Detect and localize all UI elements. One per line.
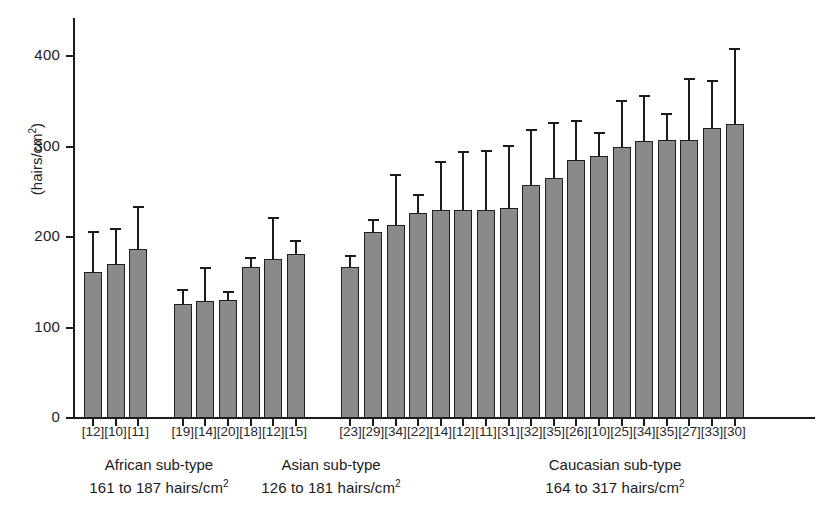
y-axis-tick [66, 236, 74, 238]
bar [174, 304, 192, 418]
group-caption-asian-line2: 126 to 181 hairs/cm2 [216, 474, 446, 497]
error-bar [666, 113, 668, 140]
error-bar-cap [200, 267, 211, 269]
bar [500, 208, 518, 418]
error-bar [182, 289, 184, 304]
error-bar-cap [661, 113, 672, 115]
group-caption-asian: Asian sub-type 126 to 181 hairs/cm2 [216, 455, 446, 497]
error-bar [440, 161, 442, 210]
bar [196, 301, 214, 418]
error-bar [204, 267, 206, 301]
y-axis-title-tail: ) [28, 123, 45, 128]
error-bar [598, 132, 600, 156]
bar [635, 141, 653, 418]
y-axis-tick-label: 300 [8, 137, 60, 154]
error-bar-cap [616, 100, 627, 102]
y-axis-title: (hairs/cm2) [27, 79, 45, 239]
bar [658, 140, 676, 418]
error-bar-cap [345, 255, 356, 257]
bar [264, 259, 282, 418]
group-caption-asian-range: 126 to 181 hairs/cm [261, 479, 395, 496]
error-bar [92, 231, 94, 273]
bar [107, 264, 125, 418]
bar [432, 210, 450, 418]
y-axis-tick [66, 417, 74, 419]
group-caption-caucasian-range: 164 to 317 hairs/cm [545, 479, 679, 496]
error-bar [272, 217, 274, 259]
error-bar-cap [110, 228, 121, 230]
error-bar-cap [435, 161, 446, 163]
group-caption-caucasian-line2: 164 to 317 hairs/cm2 [485, 474, 745, 497]
x-axis-label: [30] [719, 424, 751, 439]
error-bar-cap [368, 219, 379, 221]
error-bar-cap [177, 289, 188, 291]
bar [545, 178, 563, 418]
error-bar-cap [571, 120, 582, 122]
error-bar [137, 206, 139, 249]
bar [364, 232, 382, 418]
error-bar-cap [245, 257, 256, 259]
bar [522, 185, 540, 418]
error-bar-cap [594, 132, 605, 134]
bar [219, 300, 237, 418]
error-bar-cap [290, 240, 301, 242]
error-bar [485, 150, 487, 210]
bar [726, 124, 744, 418]
error-bar-cap [88, 231, 99, 233]
error-bar [530, 129, 532, 185]
bar [703, 128, 721, 418]
bar [477, 210, 495, 418]
error-bar-cap [639, 95, 650, 97]
group-caption-asian-sup: 2 [395, 478, 401, 489]
y-axis-tick [66, 146, 74, 148]
bar [454, 210, 472, 418]
y-axis-tick-label: 0 [8, 408, 60, 425]
group-caption-asian-line1: Asian sub-type [216, 455, 446, 474]
error-bar-cap [481, 150, 492, 152]
y-axis-tick [66, 55, 74, 57]
error-bar [295, 240, 297, 254]
bar [409, 213, 427, 418]
error-bar-cap [707, 80, 718, 82]
error-bar-cap [413, 194, 424, 196]
error-bar [688, 78, 690, 140]
y-axis-title-superscript: 2 [27, 128, 38, 134]
bar [242, 267, 260, 418]
error-bar-cap [526, 129, 537, 131]
bar [613, 147, 631, 418]
bar [287, 254, 305, 418]
error-bar-cap [503, 145, 514, 147]
error-bar-cap [684, 78, 695, 80]
error-bar [711, 80, 713, 129]
bar [129, 249, 147, 418]
y-axis-tick-label: 100 [8, 318, 60, 335]
error-bar [575, 120, 577, 160]
error-bar [734, 48, 736, 124]
error-bar [621, 100, 623, 147]
x-axis-label: [11] [122, 424, 154, 439]
y-axis-tick [66, 327, 74, 329]
bar [680, 140, 698, 418]
error-bar-cap [390, 174, 401, 176]
bar [341, 267, 359, 418]
error-bar-cap [548, 122, 559, 124]
error-bar [417, 194, 419, 213]
hair-density-bar-chart: (hairs/cm2) 0100200300400 [12][10][11][1… [0, 0, 822, 511]
error-bar [508, 145, 510, 208]
error-bar-cap [729, 48, 740, 50]
error-bar [115, 228, 117, 264]
group-caption-caucasian-line1: Caucasian sub-type [485, 455, 745, 474]
x-axis-label: [15] [280, 424, 312, 439]
error-bar-cap [223, 291, 234, 293]
y-axis-tick-label: 200 [8, 227, 60, 244]
error-bar [553, 122, 555, 178]
error-bar-cap [133, 206, 144, 208]
group-caption-caucasian: Caucasian sub-type 164 to 317 hairs/cm2 [485, 455, 745, 497]
y-axis-line [73, 18, 75, 418]
bar [567, 160, 585, 418]
error-bar [395, 174, 397, 226]
bar [590, 156, 608, 418]
group-caption-caucasian-sup: 2 [679, 478, 685, 489]
error-bar [462, 151, 464, 210]
bar [387, 225, 405, 418]
